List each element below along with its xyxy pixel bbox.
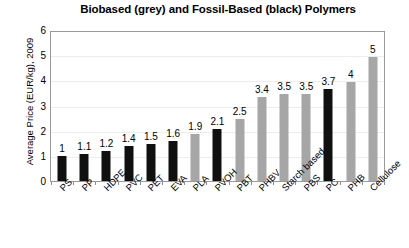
bar[interactable] [280,94,289,181]
bar-value-label: 3.5 [299,82,313,92]
bar[interactable] [257,97,266,181]
bar-slot: 1.2 [95,32,117,181]
bar-value-label: 2.1 [211,117,225,127]
bar-slot: 1.9 [184,32,206,181]
bar-value-label: 2.5 [233,107,247,117]
bar-slot: 1.6 [162,32,184,181]
y-tick-label: 5 [30,51,46,61]
bar-slot: 1 [51,32,73,181]
bar[interactable] [346,82,355,181]
bars-layer: 11.11.21.41.51.61.92.12.53.43.53.53.745 [51,32,384,181]
bar-value-label: 1 [59,144,65,154]
x-axis-labels: PSPPHDPEPVCPETEVAPLAPVOHPBTPHBVStarch ba… [51,186,384,246]
bar-slot: 2.5 [229,32,251,181]
bar-value-label: 1.5 [144,132,158,142]
bar-slot: 3.4 [251,32,273,181]
bar-slot: 2.1 [206,32,228,181]
y-tick-label: 0 [30,177,46,187]
bar-value-label: 1.2 [100,139,114,149]
bar-slot: 5 [362,32,384,181]
bar-chart: Biobased (grey) and Fossil-Based (black)… [0,0,409,248]
bar-slot: 3.5 [273,32,295,181]
bar-slot: 1.5 [140,32,162,181]
bar[interactable] [368,57,377,181]
bar[interactable] [213,129,222,181]
chart-title: Biobased (grey) and Fossil-Based (black)… [50,3,386,15]
y-tick-label: 2 [30,127,46,137]
bar[interactable] [324,89,333,181]
bar-value-label: 5 [370,45,376,55]
bar-value-label: 1.1 [77,142,91,152]
y-tick-label: 4 [30,76,46,86]
bar-value-label: 3.5 [277,82,291,92]
bar[interactable] [191,134,200,181]
y-tick-label: 1 [30,152,46,162]
bar-value-label: 1.4 [122,134,136,144]
bar-value-label: 3.4 [255,85,269,95]
bar-value-label: 1.6 [166,129,180,139]
y-tick-label: 6 [30,26,46,36]
x-tick [51,182,52,185]
bar[interactable] [169,141,178,181]
y-tick-label: 3 [30,102,46,112]
bar-value-label: 1.9 [188,122,202,132]
bar-value-label: 4 [348,70,354,80]
bar-slot: 4 [340,32,362,181]
bar-slot: 1.1 [73,32,95,181]
y-axis-ticks: 0123456 [30,31,46,182]
bar-value-label: 3.7 [322,77,336,87]
bar-slot: 1.4 [118,32,140,181]
